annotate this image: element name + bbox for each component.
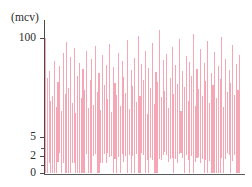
bar-base-stub bbox=[239, 153, 240, 173]
y-axis-tick-label-100: 100 bbox=[0, 32, 40, 44]
chart-figure: (mcv) 100 5 2 0 bbox=[0, 0, 252, 187]
y-axis-tick-label-5: 5 bbox=[0, 131, 40, 143]
y-axis-tick-label-0: 0 bbox=[0, 167, 40, 179]
y-axis-tick-label-2: 2 bbox=[0, 150, 40, 162]
y-axis-tick-label-group: 100 5 2 0 bbox=[0, 0, 40, 187]
bar bbox=[239, 55, 240, 154]
plot-area bbox=[45, 20, 241, 174]
